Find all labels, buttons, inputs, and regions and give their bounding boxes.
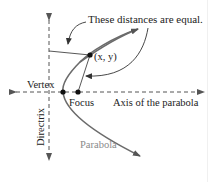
parabola-diagram: These distances are equal. (x, y) Vertex… (0, 0, 216, 182)
distance-to-directrix (49, 51, 90, 55)
distance-to-focus (78, 55, 90, 92)
annotation-arrow-left (68, 22, 86, 44)
point-label: (x, y) (94, 51, 117, 63)
annotation-text: These distances are equal. (88, 13, 203, 25)
vertex-label: Vertex (27, 79, 55, 90)
parabola-label: Parabola (80, 139, 117, 150)
axis-label: Axis of the parabola (113, 97, 199, 108)
point-xy (87, 52, 92, 57)
focus-label: Focus (69, 97, 94, 108)
focus-point (75, 89, 80, 94)
vertex-point (60, 89, 65, 94)
directrix-label: Directrix (35, 107, 46, 146)
